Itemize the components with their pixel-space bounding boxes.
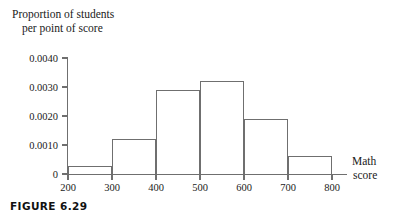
x-axis-tick — [199, 174, 200, 180]
plot-area: 00.00100.00200.00300.0040 20030040050060… — [68, 58, 332, 174]
x-axis-title-line-2: score — [352, 169, 377, 183]
figure-caption: FIGURE 6.29 — [10, 200, 87, 212]
y-axis-title-line-2: per point of score — [12, 22, 114, 36]
y-axis-title-line-1: Proportion of students — [12, 8, 114, 22]
x-axis-tick-label: 300 — [104, 182, 120, 193]
x-axis-line — [67, 174, 347, 175]
histogram-bar — [156, 90, 200, 174]
y-axis-tick: 0.0020 — [62, 115, 68, 116]
x-axis-tick-label: 600 — [236, 182, 252, 193]
y-axis-tick-label: 0.0030 — [29, 81, 58, 92]
x-axis-tick-label: 500 — [192, 182, 208, 193]
x-axis-tick — [331, 174, 332, 180]
x-axis-tick-label: 800 — [324, 182, 340, 193]
y-axis-tick-label: 0.0040 — [29, 53, 58, 64]
y-axis-tick-label: 0.0020 — [29, 110, 58, 121]
y-axis-tick: 0.0040 — [62, 57, 68, 58]
x-axis-tick — [67, 174, 68, 180]
histogram-bar — [288, 156, 332, 174]
x-axis-tick-label: 700 — [280, 182, 296, 193]
x-axis-tick-label: 400 — [148, 182, 164, 193]
y-axis-tick-label: 0.0010 — [29, 139, 58, 150]
y-axis-tick-label: 0 — [53, 168, 58, 179]
histogram-bar — [112, 139, 156, 174]
x-axis-tick-label: 200 — [60, 182, 76, 193]
x-axis-tick — [287, 174, 288, 180]
histogram-bar — [244, 119, 288, 174]
y-axis-tick: 0.0030 — [62, 86, 68, 87]
histogram-bar — [200, 81, 244, 174]
x-axis-title: Math score — [352, 155, 377, 182]
x-axis-tick — [243, 174, 244, 180]
x-axis-title-line-1: Math — [352, 155, 377, 169]
x-axis-tick — [111, 174, 112, 180]
histogram-bar — [68, 166, 112, 174]
y-axis-title: Proportion of students per point of scor… — [12, 8, 114, 35]
x-axis-tick — [155, 174, 156, 180]
figure-container: Proportion of students per point of scor… — [0, 0, 412, 222]
y-axis-tick: 0.0010 — [62, 144, 68, 145]
